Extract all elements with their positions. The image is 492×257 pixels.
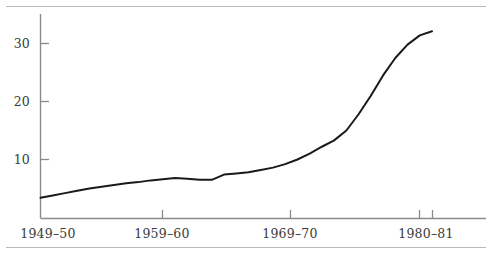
x-tick-label-1949-50: 1949–50 (8, 226, 88, 241)
x-tick-label-1969-70: 1969–70 (250, 226, 330, 241)
axis-group (41, 14, 487, 219)
y-tick-label-20: 20 (4, 94, 30, 109)
y-tick-label-30: 30 (4, 36, 30, 51)
y-tick-marks (41, 44, 50, 160)
x-tick-label-1959-60: 1959–60 (122, 226, 202, 241)
x-tick-marks (163, 210, 433, 218)
data-series-line (41, 31, 433, 197)
line-chart-plot (0, 0, 492, 257)
y-tick-label-10: 10 (4, 152, 30, 167)
x-tick-label-1980-81: 1980–81 (386, 226, 466, 241)
figure-container: 30 20 10 1949–50 1959–60 1969–70 1980–81 (0, 0, 492, 257)
